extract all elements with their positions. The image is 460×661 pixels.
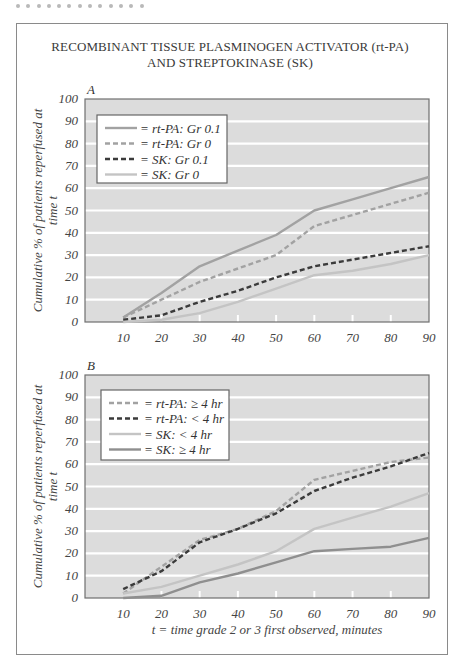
y-tick-label: 80 xyxy=(65,136,79,151)
y-tick-label: 10 xyxy=(65,292,79,307)
x-tick-label: 50 xyxy=(270,330,284,345)
y-tick-label: 10 xyxy=(65,568,79,583)
y-tick-label: 20 xyxy=(65,269,79,284)
x-tick-label: 20 xyxy=(155,330,169,345)
legend: = rt-PA: ≥ 4 hr= rt-PA: < 4 hr= SK: < 4 … xyxy=(101,390,229,460)
x-tick-label: 30 xyxy=(192,330,207,345)
x-tick-label: 10 xyxy=(117,330,131,345)
y-tick-label: 100 xyxy=(59,91,79,106)
x-tick-label: 40 xyxy=(231,330,245,345)
x-tick-label: 90 xyxy=(423,330,437,345)
x-tick-label: 70 xyxy=(346,606,360,621)
legend-entry: = rt-PA: < 4 hr xyxy=(144,411,225,426)
legend-entry: = rt-PA: ≥ 4 hr xyxy=(144,396,223,411)
x-tick-label: 60 xyxy=(308,330,322,345)
y-tick-label: 70 xyxy=(65,434,79,449)
x-tick-label: 90 xyxy=(423,606,437,621)
y-tick-label: 90 xyxy=(65,113,79,128)
legend: = rt-PA: Gr 0.1= rt-PA: Gr 0= SK: Gr 0.1… xyxy=(97,115,227,183)
legend-entry: = SK: Gr 0 xyxy=(140,167,199,182)
chart-canvas: 0102030405060708090100102030405060708090… xyxy=(0,0,460,661)
y-tick-label: 60 xyxy=(65,180,79,195)
y-tick-label: 100 xyxy=(59,367,79,382)
legend-entry: = SK: ≥ 4 hr xyxy=(144,442,211,457)
y-tick-label: 90 xyxy=(65,389,79,404)
y-tick-label: 40 xyxy=(65,225,79,240)
panel-label: B xyxy=(87,358,95,373)
y-tick-label: 30 xyxy=(64,523,79,538)
x-tick-label: 80 xyxy=(384,606,398,621)
x-tick-label: 50 xyxy=(270,606,284,621)
x-tick-label: 80 xyxy=(384,330,398,345)
x-tick-label: 70 xyxy=(346,330,360,345)
y-tick-label: 80 xyxy=(65,412,79,427)
x-tick-label: 30 xyxy=(192,606,207,621)
x-tick-label: 60 xyxy=(308,606,322,621)
y-tick-label: 50 xyxy=(65,479,79,494)
chart-panel-b: 0102030405060708090100102030405060708090… xyxy=(30,358,436,637)
y-tick-label: 20 xyxy=(65,545,79,560)
x-tick-label: 20 xyxy=(155,606,169,621)
panel-label: A xyxy=(86,82,95,97)
y-axis-label: Cumulative % of patients reperfused atti… xyxy=(30,108,60,312)
y-tick-label: 60 xyxy=(65,456,79,471)
legend-entry: = SK: < 4 hr xyxy=(144,427,213,442)
legend-entry: = rt-PA: Gr 0.1 xyxy=(140,121,221,136)
legend-entry: = SK: Gr 0.1 xyxy=(140,152,209,167)
y-tick-label: 50 xyxy=(65,203,79,218)
x-tick-label: 40 xyxy=(231,606,245,621)
chart-panel-a: 0102030405060708090100102030405060708090… xyxy=(30,82,436,345)
y-axis-label: Cumulative % of patients reperfused atti… xyxy=(30,384,60,588)
y-tick-label: 0 xyxy=(72,590,79,605)
y-tick-label: 30 xyxy=(64,247,79,262)
x-tick-label: 10 xyxy=(117,606,131,621)
legend-entry: = rt-PA: Gr 0 xyxy=(140,136,212,151)
y-tick-label: 70 xyxy=(65,158,79,173)
y-tick-label: 40 xyxy=(65,501,79,516)
x-axis-label: t = time grade 2 or 3 first observed, mi… xyxy=(152,622,382,637)
y-tick-label: 0 xyxy=(72,314,79,329)
